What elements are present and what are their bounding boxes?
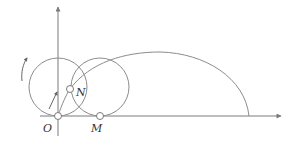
point-o-marker	[55, 113, 62, 120]
point-n-marker	[67, 86, 74, 93]
points-group: OMN	[43, 86, 104, 136]
point-o-label: O	[43, 122, 52, 135]
geometry-diagram: OMN	[0, 0, 297, 142]
rotation-direction-arrow-icon	[22, 58, 27, 81]
point-m-label: M	[90, 122, 103, 135]
point-n-label: N	[75, 86, 86, 99]
radius-direction-arrow-icon	[49, 92, 57, 109]
point-m-marker	[97, 113, 104, 120]
